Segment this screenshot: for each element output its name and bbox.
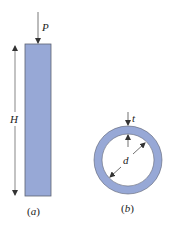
caption-b: (b) <box>121 202 134 215</box>
diameter-label: d <box>123 154 129 166</box>
diameter-arrow-lower <box>110 167 121 177</box>
column <box>25 44 51 196</box>
diameter-arrow-upper <box>133 143 145 154</box>
figure-a: P H (a) <box>9 12 51 218</box>
caption-a: (a) <box>27 205 40 218</box>
figure-b: t d (b) <box>94 112 162 215</box>
thickness-label: t <box>132 112 136 124</box>
diagram-canvas: P H (a) t d (b) <box>0 0 175 226</box>
height-label: H <box>9 113 19 125</box>
load-label: P <box>41 21 49 33</box>
